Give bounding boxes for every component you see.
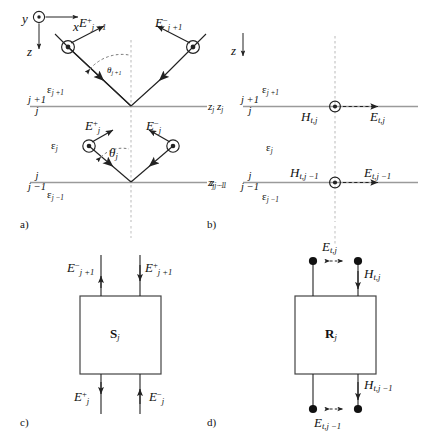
panel-b-permittivity-middle: εj xyxy=(266,142,273,155)
panel-label-a: a) xyxy=(20,219,29,230)
panel-b-interface-top-index: j +1 j xyxy=(241,95,259,116)
panel-a-z-top-label: zj xyxy=(208,101,214,114)
panel-b-permittivity-upper: εj +1 xyxy=(262,84,279,97)
panel-c-port-top-right-label: E+j +1 xyxy=(145,261,172,276)
panel-a-x-axis-label: x xyxy=(73,20,79,33)
panel-c-port-top-left-label: E−j +1 xyxy=(67,261,94,276)
panel-a-permittivity-middle: εj xyxy=(51,140,58,153)
panel-c-box-label: Sj xyxy=(110,327,120,342)
panel-a-z-axis-label: z xyxy=(27,45,32,58)
panel-b-e-top-label: Et,j xyxy=(370,110,385,125)
panel-b-h-bottom-label: Ht,j −1 xyxy=(290,166,319,181)
panel-a-interface-bottom-index: j j −1 xyxy=(28,171,46,192)
panel-label-b: b) xyxy=(207,219,216,230)
panel-a-angle-lower: θj xyxy=(109,146,118,161)
panel-b-z-bottom-label: zj −1 xyxy=(210,177,227,190)
panel-b-permittivity-lower: εj −1 xyxy=(262,191,279,204)
panel-d-port-top-current-label: Ht,j xyxy=(364,267,380,282)
panel-b-z-axis-label: z xyxy=(231,44,236,57)
panel-a-field-up-right: E−j +1 xyxy=(155,16,182,31)
panel-c-port-bottom-left-label: E+j xyxy=(74,390,89,405)
panel-a-field-low-right: E−j xyxy=(146,119,161,134)
panel-b-e-bottom-label: Et,j −1 xyxy=(364,166,391,181)
panel-d-port-bottom-current-label: Ht,j −1 xyxy=(364,378,393,393)
panel-d-port-top-voltage-label: Et,j xyxy=(322,240,337,255)
panel-label-c: c) xyxy=(20,417,29,428)
panel-a-y-axis-label: y xyxy=(22,12,28,25)
panel-a-permittivity-lower: εj −1 xyxy=(47,189,64,202)
panel-b-interface-bottom-index: j j −1 xyxy=(241,171,259,192)
panel-label-d: d) xyxy=(207,417,216,428)
panel-d-port-bottom-voltage-label: Et,j −1 xyxy=(314,416,341,431)
panel-d-box-label: Rj xyxy=(325,327,337,342)
panel-a-field-low-left: E+j xyxy=(85,119,100,134)
panel-c-port-bottom-right-label: E−j xyxy=(149,390,164,405)
panel-a-field-up-left: E+j +1 xyxy=(79,16,106,31)
panel-b-z-top-label: zj xyxy=(217,101,223,114)
panel-a-permittivity-upper: εj +1 xyxy=(47,84,64,97)
panel-a-angle-upper: θj +1 xyxy=(107,66,122,77)
panel-b-h-top-label: Ht,j xyxy=(301,110,317,125)
figure-root: y x z E+j +1 E−j +1 E+j E−j θj +1 θj εj … xyxy=(0,0,427,445)
panel-c-box xyxy=(80,296,161,374)
panel-a-interface-top-index: j +1 j xyxy=(28,95,46,116)
